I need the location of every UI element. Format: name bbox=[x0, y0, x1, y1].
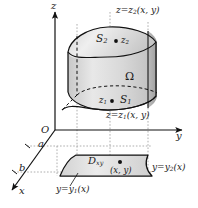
bottom-surface-label-sub: 1 bbox=[127, 98, 131, 106]
tick-a bbox=[25, 144, 30, 148]
bottom-point-label: z1 bbox=[99, 96, 107, 106]
top-surface-label: S2 bbox=[96, 33, 107, 45]
origin-label: O bbox=[41, 125, 49, 135]
lower-curve-equation: y=y1(x) bbox=[56, 185, 90, 195]
bottom-surface-equation-args: (x, y) bbox=[127, 110, 150, 120]
upper-curve-equation: y=y2(x) bbox=[152, 163, 186, 173]
y-axis-label: y bbox=[176, 131, 182, 141]
b-tick-label: b bbox=[19, 163, 25, 173]
tick-b bbox=[12, 170, 17, 174]
top-point-label-sub: 2 bbox=[125, 39, 128, 45]
z-axis-label: z bbox=[51, 1, 56, 11]
figure-canvas: z y x O a b z=z2(x, y) z=z1(x, y) S2 z2 … bbox=[0, 0, 198, 208]
bottom-surface-equation: z=z1(x, y) bbox=[106, 111, 150, 121]
bottom-point-label-sub: 1 bbox=[103, 99, 106, 105]
domain-region bbox=[60, 155, 152, 176]
point-z1-dot bbox=[110, 99, 114, 103]
bottom-surface-label: S1 bbox=[120, 94, 131, 106]
top-surface-label-sub: 2 bbox=[103, 37, 107, 45]
domain-label-text: D bbox=[88, 155, 96, 166]
upper-curve-equation-args: (x) bbox=[173, 162, 185, 172]
solid-region-label: Ω bbox=[125, 71, 134, 82]
a-tick-label: a bbox=[38, 139, 44, 149]
lower-curve-equation-lhs: y=y bbox=[56, 184, 74, 194]
lower-curve-equation-args: (x) bbox=[77, 184, 89, 194]
point-xy-dot bbox=[118, 160, 122, 164]
upper-curve-equation-lhs: y=y bbox=[152, 162, 170, 172]
top-point-label: z2 bbox=[121, 36, 129, 46]
domain-label-sub: xy bbox=[96, 159, 103, 167]
domain-label: Dxy bbox=[88, 156, 103, 167]
x-axis bbox=[12, 130, 55, 190]
domain-point-label: (x, y) bbox=[110, 166, 132, 175]
x-axis-label: x bbox=[19, 186, 25, 196]
point-z2-dot bbox=[114, 39, 118, 43]
top-surface-equation-args: (x, y) bbox=[137, 5, 160, 15]
bottom-surface-equation-lhs: z=z bbox=[106, 110, 123, 120]
top-surface-equation: z=z2(x, y) bbox=[116, 6, 160, 16]
top-surface-equation-lhs: z=z bbox=[116, 5, 133, 15]
